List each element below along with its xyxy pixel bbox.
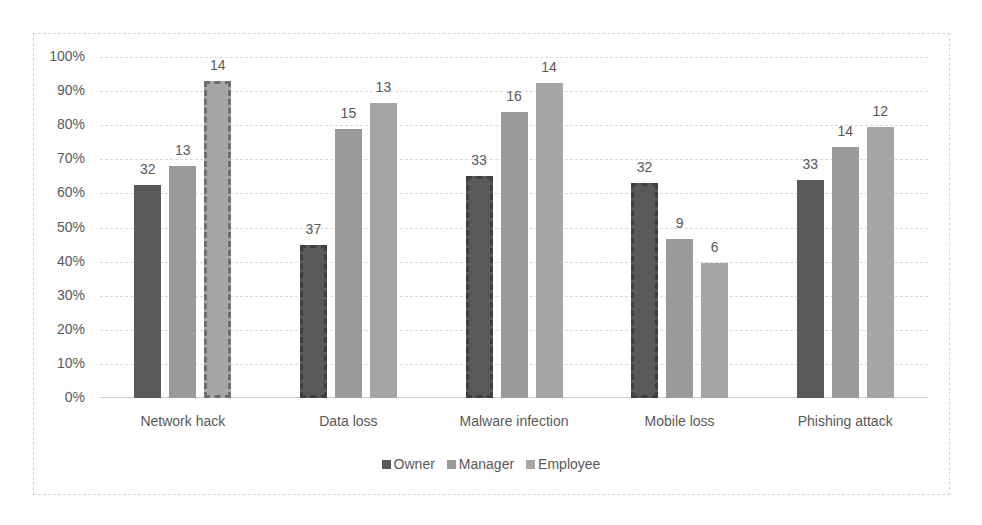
bar-owner[interactable] [300,245,327,398]
bar-manager[interactable] [335,129,362,398]
bar-manager[interactable] [501,112,528,398]
y-tick-label: 30% [30,287,85,303]
data-label: 16 [494,88,534,104]
y-tick-label: 80% [30,116,85,132]
data-label: 14 [198,57,238,73]
data-label: 14 [825,123,865,139]
data-label: 37 [293,221,333,237]
data-label: 15 [328,105,368,121]
x-tick-label: Phishing attack [765,413,925,429]
data-label: 33 [459,152,499,168]
legend-item-employee[interactable]: Employee [526,456,600,472]
data-label: 9 [660,215,700,231]
y-tick-label: 20% [30,321,85,337]
x-tick-label: Malware infection [434,413,594,429]
data-label: 13 [163,142,203,158]
bar-manager[interactable] [666,239,693,398]
bar-manager[interactable] [169,166,196,398]
bar-employee[interactable] [204,81,231,398]
x-tick-label: Data loss [268,413,428,429]
legend-item-manager[interactable]: Manager [447,456,514,472]
legend-label-employee: Employee [538,456,600,472]
bar-owner[interactable] [631,183,658,398]
x-tick-label: Network hack [103,413,263,429]
bar-employee[interactable] [701,263,728,398]
bar-owner[interactable] [797,180,824,398]
bar-employee[interactable] [867,127,894,398]
data-label: 33 [790,156,830,172]
legend: Owner Manager Employee [0,456,982,472]
y-tick-label: 70% [30,150,85,166]
bar-owner[interactable] [134,185,161,398]
bar-employee[interactable] [370,103,397,398]
x-tick-label: Mobile loss [600,413,760,429]
data-label: 32 [625,159,665,175]
y-tick-label: 90% [30,82,85,98]
data-label: 13 [363,79,403,95]
bar-manager[interactable] [832,147,859,398]
plot-area: 3213143715133316143296331412 [100,57,928,398]
legend-item-owner[interactable]: Owner [382,456,435,472]
y-tick-label: 100% [30,48,85,64]
y-tick-label: 0% [30,389,85,405]
bar-owner[interactable] [466,176,493,398]
legend-swatch-owner [382,460,391,469]
y-tick-label: 50% [30,219,85,235]
legend-label-manager: Manager [459,456,514,472]
legend-label-owner: Owner [394,456,435,472]
data-label: 14 [529,59,569,75]
y-tick-label: 40% [30,253,85,269]
legend-swatch-manager [447,460,456,469]
legend-swatch-employee [526,460,535,469]
y-tick-label: 60% [30,184,85,200]
y-tick-label: 10% [30,355,85,371]
data-label: 32 [128,161,168,177]
data-label: 6 [695,239,735,255]
data-label: 12 [860,103,900,119]
bar-employee[interactable] [536,83,563,398]
